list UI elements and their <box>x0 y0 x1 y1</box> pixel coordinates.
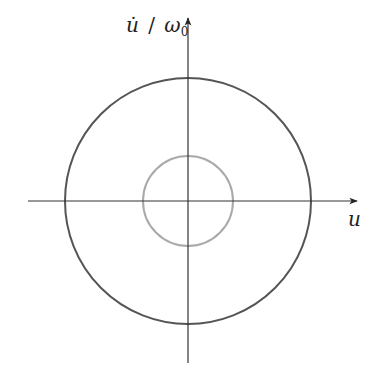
x-axis-label: u <box>348 207 361 231</box>
y-axis-label: u̇ / ω0 <box>126 13 188 39</box>
phase-portrait-diagram: u u̇ / ω0 <box>0 0 381 377</box>
y-label-denominator: ω <box>164 13 180 37</box>
y-label-subscript: 0 <box>181 25 189 39</box>
y-label-slash: / <box>148 13 155 37</box>
y-label-numerator: u̇ <box>126 13 139 37</box>
